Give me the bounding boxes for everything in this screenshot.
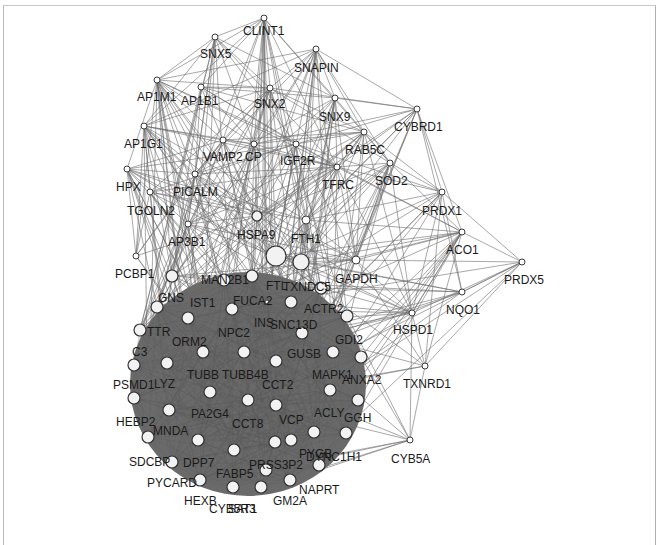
node-label-txnrd1: TXNRD1 — [403, 377, 451, 391]
node-label-snc13d: SNC13D — [270, 318, 318, 332]
node-igf2r[interactable] — [293, 141, 299, 147]
node-hspa9[interactable] — [252, 211, 262, 221]
node-ttr[interactable] — [134, 324, 146, 336]
node-txnrd1[interactable] — [422, 363, 428, 369]
node-label-npc2: NPC2 — [218, 326, 250, 340]
node-tfrc[interactable] — [334, 164, 340, 170]
node-npc2[interactable] — [238, 346, 250, 358]
node-label-mnda: MNDA — [153, 424, 188, 438]
node-label-tgoln2: TGOLN2 — [127, 204, 175, 218]
edge — [301, 232, 462, 262]
node-label-fth1: FTH1 — [291, 232, 321, 246]
node-ap1g1[interactable] — [141, 123, 147, 129]
node-snx5[interactable] — [212, 34, 218, 40]
node-label-gns: GNS — [158, 291, 184, 305]
node-snx9[interactable] — [332, 95, 338, 101]
node-naprt[interactable] — [284, 474, 296, 486]
node-vcp[interactable] — [285, 434, 297, 446]
node-hpx[interactable] — [124, 166, 130, 172]
node-label-cp: CP — [245, 150, 262, 164]
node-label-hebp2: HEBP2 — [116, 415, 156, 429]
node-gapdh[interactable] — [352, 256, 360, 264]
node-ist1[interactable] — [182, 312, 194, 324]
node-cct8[interactable] — [270, 399, 282, 411]
node-nqo1[interactable] — [459, 289, 465, 295]
node-cyb5a[interactable] — [407, 437, 413, 443]
node-label-hspa9: HSPA9 — [237, 228, 276, 242]
node-acly[interactable] — [352, 394, 364, 406]
node-ap1m1[interactable] — [154, 77, 160, 83]
node-label-nqo1: NQO1 — [446, 303, 480, 317]
node-label-pycard: PYCARD — [147, 476, 197, 490]
node-rab5c[interactable] — [361, 129, 367, 135]
node-gm2a[interactable] — [255, 481, 267, 493]
node-prdx5[interactable] — [519, 259, 525, 265]
node-snapin[interactable] — [313, 46, 319, 52]
node-lyz[interactable] — [161, 357, 173, 369]
node-label-snapin: SNAPIN — [294, 61, 339, 75]
node-label-snx5: SNX5 — [200, 47, 232, 61]
node-actr2[interactable] — [285, 296, 297, 308]
node-vamp2[interactable] — [220, 137, 226, 143]
node-label-cct2: CCT2 — [262, 378, 294, 392]
node-label-prss3p2: PRSS3P2 — [249, 458, 303, 472]
node-label-aco1: ACO1 — [446, 243, 479, 257]
node-label-dpp7: DPP7 — [183, 456, 215, 470]
node-label-snx2: SNX2 — [254, 97, 286, 111]
node-label-ap1g1: AP1G1 — [124, 137, 163, 151]
node-label-igf2r: IGF2R — [280, 154, 316, 168]
node-label-txndc5: TXNDC5 — [283, 280, 331, 294]
node-hexb[interactable] — [227, 481, 239, 493]
node-label-sod2: SOD2 — [375, 174, 408, 188]
node-c3[interactable] — [128, 359, 140, 371]
node-sod2[interactable] — [387, 160, 393, 166]
node-picalm[interactable] — [192, 171, 198, 177]
node-aco1[interactable] — [459, 229, 465, 235]
node-label-vamp2: VAMP2 — [203, 150, 243, 164]
node-label-prdx5: PRDX5 — [504, 273, 544, 287]
node-fabp5[interactable] — [269, 436, 281, 448]
node-hspa5[interactable] — [266, 246, 286, 266]
node-label-ap1m1: AP1M1 — [137, 90, 177, 104]
node-tubb4b[interactable] — [270, 355, 282, 367]
node-fth1[interactable] — [302, 216, 310, 224]
node-tubb[interactable] — [204, 386, 216, 398]
node-label-dync1h1: DYNC1H1 — [306, 450, 362, 464]
node-gusb[interactable] — [327, 346, 339, 358]
node-mnda[interactable] — [192, 434, 204, 446]
node-pcbp2[interactable] — [166, 270, 178, 282]
edge — [361, 357, 410, 440]
node-label-cyb5a: CYB5A — [391, 452, 430, 466]
node-mapk1[interactable] — [324, 384, 336, 396]
node-ap1b1[interactable] — [198, 84, 204, 90]
node-hspd1[interactable] — [409, 310, 415, 316]
node-label-hpx: HPX — [116, 180, 141, 194]
node-label-tfrc: TFRC — [322, 178, 354, 192]
node-pcbp1[interactable] — [133, 253, 139, 259]
node-label-snx9: SNX9 — [319, 110, 351, 124]
node-pygb[interactable] — [308, 426, 320, 438]
node-anxa2[interactable] — [355, 351, 367, 363]
node-label-anxa2: ANXA2 — [342, 373, 382, 387]
node-tgoln2[interactable] — [147, 189, 153, 195]
node-label-clint1: CLINT1 — [243, 24, 285, 38]
node-prdx1[interactable] — [439, 189, 445, 195]
node-label-pa2g4: PA2G4 — [191, 407, 229, 421]
node-clint1[interactable] — [261, 15, 267, 21]
node-label-orm2: ORM2 — [172, 335, 207, 349]
node-ggh[interactable] — [340, 427, 352, 439]
node-hsp90[interactable] — [293, 254, 309, 270]
node-label-ap1b1: AP1B1 — [181, 94, 219, 108]
node-label-cct8: CCT8 — [232, 417, 264, 431]
node-ap3b1[interactable] — [185, 221, 191, 227]
node-psmd1[interactable] — [128, 392, 140, 404]
node-label-sdcbp: SDCBP — [129, 455, 170, 469]
node-pa2g4[interactable] — [163, 404, 175, 416]
node-cybrd1[interactable] — [414, 106, 420, 112]
node-dpp7[interactable] — [228, 444, 240, 456]
node-label-tubb: TUBB — [187, 368, 219, 382]
node-cct2[interactable] — [242, 394, 254, 406]
node-snx2[interactable] — [267, 85, 273, 91]
node-cp[interactable] — [251, 141, 257, 147]
node-label-gusb: GUSB — [287, 347, 321, 361]
